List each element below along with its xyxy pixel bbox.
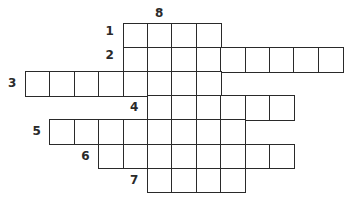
crossword-cell[interactable] (220, 168, 246, 194)
crossword-cell[interactable] (220, 144, 246, 170)
clue-number-across-6: 6 (81, 150, 89, 162)
crossword-cell[interactable] (98, 144, 124, 170)
crossword-cell[interactable] (147, 168, 173, 194)
crossword-cell[interactable] (269, 47, 295, 73)
clue-number-across-4: 4 (130, 101, 138, 113)
crossword-cell[interactable] (74, 71, 100, 97)
crossword-cell[interactable] (123, 47, 149, 73)
crossword-cell[interactable] (171, 95, 197, 121)
crossword-cell[interactable] (49, 119, 75, 145)
crossword-cell[interactable] (123, 23, 149, 49)
crossword-cell[interactable] (49, 71, 75, 97)
crossword-cell[interactable] (245, 95, 271, 121)
clue-number-across-5: 5 (32, 125, 40, 137)
crossword-cell[interactable] (171, 168, 197, 194)
crossword-cell[interactable] (171, 47, 197, 73)
crossword-cell[interactable] (123, 144, 149, 170)
crossword-cell[interactable] (220, 47, 246, 73)
crossword-cell[interactable] (269, 144, 295, 170)
crossword-cell[interactable] (196, 95, 222, 121)
crossword-cell[interactable] (245, 144, 271, 170)
crossword-cell[interactable] (196, 144, 222, 170)
crossword-cell[interactable] (147, 95, 173, 121)
clue-number-across-2: 2 (106, 49, 114, 61)
crossword-cell[interactable] (293, 47, 319, 73)
crossword-grid: 12345678 (0, 0, 353, 204)
clue-number-across-1: 1 (106, 25, 114, 37)
crossword-cell[interactable] (196, 119, 222, 145)
crossword-cell[interactable] (196, 168, 222, 194)
crossword-cell[interactable] (171, 23, 197, 49)
crossword-cell[interactable] (147, 23, 173, 49)
crossword-cell[interactable] (25, 71, 51, 97)
clue-number-down-8: 8 (155, 7, 163, 19)
crossword-cell[interactable] (147, 71, 173, 97)
crossword-cell[interactable] (171, 71, 197, 97)
clue-number-across-3: 3 (8, 77, 16, 89)
crossword-cell[interactable] (123, 119, 149, 145)
clue-number-across-7: 7 (130, 174, 138, 186)
crossword-cell[interactable] (74, 119, 100, 145)
crossword-cell[interactable] (220, 119, 246, 145)
crossword-cell[interactable] (147, 119, 173, 145)
crossword-cell[interactable] (220, 95, 246, 121)
crossword-cell[interactable] (147, 144, 173, 170)
crossword-cell[interactable] (196, 71, 222, 97)
crossword-cell[interactable] (196, 47, 222, 73)
crossword-cell[interactable] (123, 71, 149, 97)
crossword-cell[interactable] (196, 23, 222, 49)
crossword-cell[interactable] (98, 119, 124, 145)
crossword-cell[interactable] (98, 71, 124, 97)
crossword-cell[interactable] (269, 95, 295, 121)
crossword-cell[interactable] (171, 119, 197, 145)
crossword-cell[interactable] (147, 47, 173, 73)
crossword-cell[interactable] (318, 47, 344, 73)
crossword-cell[interactable] (245, 47, 271, 73)
crossword-cell[interactable] (171, 144, 197, 170)
